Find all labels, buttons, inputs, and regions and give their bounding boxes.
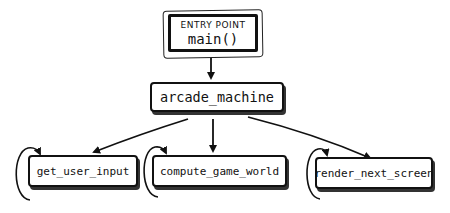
edge-arcade-to-render-next-screen — [248, 117, 370, 158]
arcade-machine-node[interactable]: arcade_machine — [150, 82, 284, 112]
edge-arcade-to-get-user-input — [94, 119, 188, 152]
entry-point-kicker: ENTRY POINT — [181, 20, 246, 31]
get-user-input-label: get_user_input — [37, 165, 130, 178]
get-user-input-node[interactable]: get_user_input — [28, 155, 138, 187]
render-next-screen-node[interactable]: render_next_screen — [315, 157, 433, 189]
render-next-screen-label: render_next_screen — [314, 167, 433, 180]
compute-game-world-node[interactable]: compute_game_world — [152, 155, 287, 187]
compute-game-world-label: compute_game_world — [160, 165, 279, 178]
entry-point-node[interactable]: ENTRY POINT main() — [168, 14, 258, 52]
entry-point-title: main() — [188, 31, 239, 47]
arcade-machine-label: arcade_machine — [160, 89, 274, 105]
